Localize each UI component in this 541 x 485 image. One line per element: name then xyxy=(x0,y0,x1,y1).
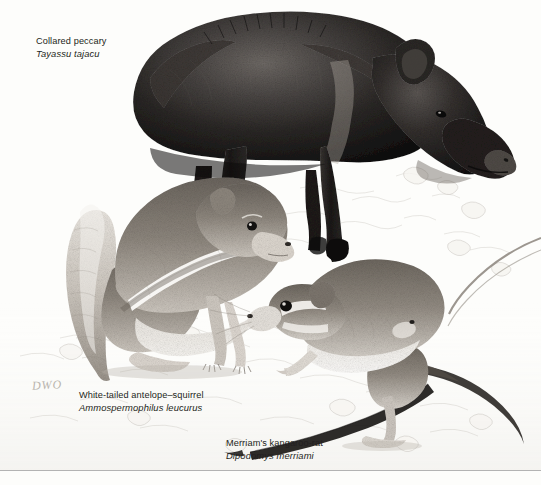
artwork-canvas xyxy=(0,0,541,470)
illustration-plate: Collared peccary Tayassu tajacu White-ta… xyxy=(0,0,541,485)
bottom-divider-rule xyxy=(0,470,541,471)
